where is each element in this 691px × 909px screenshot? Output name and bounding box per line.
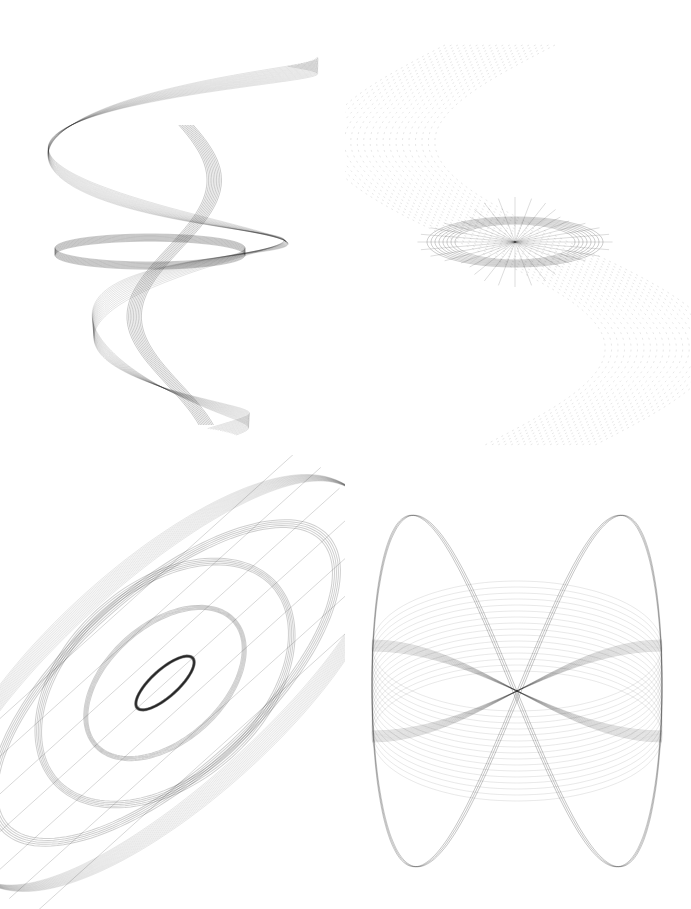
spindle-torus-drawing xyxy=(0,455,345,909)
figure-ribbon-spiral: Twisting ribbon helix with dense knot at… xyxy=(0,0,345,455)
lissajous-barrel-drawing xyxy=(345,455,691,909)
ribbon-spiral-drawing xyxy=(0,0,345,455)
figure-spindle-torus: Diagonal spindle with nested ellipses an… xyxy=(0,455,345,909)
figure-s-mesh: S-shaped dotted mesh surface with dark r… xyxy=(345,0,691,455)
figure-lissajous-barrel: Lissajous figure: barrel of ellipses cro… xyxy=(345,455,691,909)
s-mesh-drawing xyxy=(345,0,691,455)
